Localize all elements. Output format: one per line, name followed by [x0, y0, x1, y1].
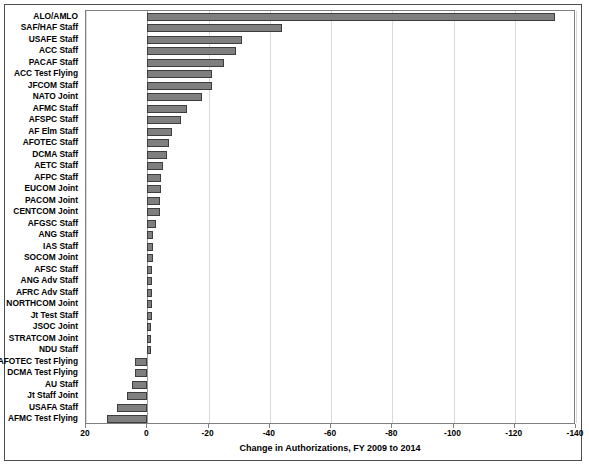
chart-figure: ALO/AMLOSAF/HAF StaffUSAFE StaffACC Staf…	[0, 0, 589, 467]
bar	[147, 266, 152, 274]
gridline	[392, 11, 393, 423]
bar	[147, 300, 152, 308]
x-tick-label: 0	[144, 428, 149, 438]
bar	[147, 197, 159, 205]
category-label: AU Staff	[45, 379, 78, 389]
x-tick-label: 20	[80, 428, 89, 438]
plot-area	[85, 10, 575, 424]
x-tick-label: -40	[263, 428, 275, 438]
category-label: NORTHCOM Joint	[6, 298, 78, 308]
bar	[127, 392, 147, 400]
bar	[147, 128, 172, 136]
gridline	[454, 11, 455, 423]
category-label: ANG Adv Staff	[21, 275, 78, 285]
category-label: USAFE Staff	[29, 34, 78, 44]
gridline	[576, 11, 577, 423]
x-tick-label: -140	[567, 428, 584, 438]
category-label: AFSC Staff	[34, 264, 78, 274]
bar-rows	[86, 11, 574, 423]
gridline	[270, 11, 271, 423]
category-label: JSOC Joint	[33, 321, 78, 331]
category-label: USAFA Staff	[29, 402, 78, 412]
bar	[147, 346, 151, 354]
category-label: IAS Staff	[43, 241, 78, 251]
x-tick-label: -60	[324, 428, 336, 438]
bar	[147, 151, 167, 159]
bar	[147, 231, 153, 239]
category-axis-labels: ALO/AMLOSAF/HAF StaffUSAFE StaffACC Staf…	[0, 10, 82, 424]
bar	[147, 105, 187, 113]
bar	[147, 335, 151, 343]
category-label: NDU Staff	[39, 344, 78, 354]
bar	[147, 116, 181, 124]
category-label: JFCOM Staff	[28, 80, 78, 90]
category-label: ALO/AMLO	[33, 11, 78, 21]
category-label: AFSPC Staff	[29, 114, 78, 124]
category-label: ACC Test Flying	[14, 68, 78, 78]
x-tick-label: -100	[444, 428, 461, 438]
category-label: ACC Staff	[39, 45, 78, 55]
category-label: STRATCOM Joint	[9, 333, 78, 343]
bar	[147, 36, 242, 44]
category-label: AFMC Test Flying	[8, 413, 78, 423]
bar	[147, 174, 161, 182]
bar	[147, 70, 211, 78]
bar	[147, 47, 236, 55]
bar	[117, 404, 148, 412]
category-label: DCMA Staff	[32, 149, 78, 159]
bar	[147, 312, 152, 320]
category-label: AF Elm Staff	[28, 126, 78, 136]
category-label: SOCOM Joint	[24, 252, 78, 262]
bar	[147, 254, 153, 262]
category-label: Jt Test Staff	[31, 310, 78, 320]
category-label: PACOM Joint	[25, 195, 78, 205]
bar	[147, 208, 159, 216]
bar	[147, 59, 224, 67]
category-label: CENTCOM Joint	[13, 206, 78, 216]
category-label: SAF/HAF Staff	[21, 22, 78, 32]
bar	[147, 277, 152, 285]
bar	[135, 358, 147, 366]
category-label: ANG Staff	[38, 229, 78, 239]
bar	[147, 24, 282, 32]
category-label: AFGSC Staff	[28, 218, 78, 228]
x-tick-label: -120	[505, 428, 522, 438]
category-label: AFMC Staff	[33, 103, 78, 113]
x-axis-title: Change in Authorizations, FY 2009 to 201…	[85, 443, 575, 453]
category-label: AFRC Adv Staff	[16, 287, 78, 297]
category-label: DCMA Test Flying	[7, 367, 78, 377]
gridline	[86, 11, 87, 423]
gridline	[515, 11, 516, 423]
category-label: AETC Staff	[34, 160, 78, 170]
category-label: PACAF Staff	[29, 57, 78, 67]
bar	[147, 82, 211, 90]
bar	[147, 93, 202, 101]
bar	[107, 415, 147, 423]
bar	[147, 139, 168, 147]
bar	[147, 243, 153, 251]
bar	[147, 289, 152, 297]
category-label: AFOTEC Staff	[23, 137, 78, 147]
bar	[147, 13, 554, 21]
bar	[132, 381, 147, 389]
bar	[147, 162, 162, 170]
bar	[135, 369, 147, 377]
category-label: AFOTEC Test Flying	[0, 356, 78, 366]
bar	[147, 185, 161, 193]
category-label: EUCOM Joint	[24, 183, 78, 193]
bar	[147, 220, 156, 228]
bar	[147, 323, 151, 331]
category-label: AFPC Staff	[34, 172, 78, 182]
x-tick-label: -80	[385, 428, 397, 438]
gridline	[331, 11, 332, 423]
x-tick-label: -20	[201, 428, 213, 438]
category-label: Jt Staff Joint	[27, 390, 78, 400]
category-label: NATO Joint	[33, 91, 78, 101]
